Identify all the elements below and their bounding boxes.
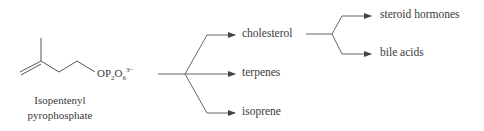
phosphate-formula: OP2O63− (97, 67, 133, 82)
label-steroid-hormones: steroid hormones (380, 9, 460, 21)
molecule-name-line1: Isopentenyl (0, 93, 120, 108)
main-branch-arrows (158, 35, 235, 113)
label-cholesterol: cholesterol (242, 28, 292, 40)
label-terpenes: terpenes (242, 67, 280, 79)
cholesterol-branch-arrows (306, 16, 371, 54)
isopentenyl-skeleton (20, 38, 95, 75)
molecule-name: Isopentenyl pyrophosphate (0, 93, 120, 123)
label-isoprene: isoprene (242, 106, 281, 118)
label-bile-acids: bile acids (380, 47, 424, 59)
molecule-name-line2: pyrophosphate (0, 108, 120, 123)
